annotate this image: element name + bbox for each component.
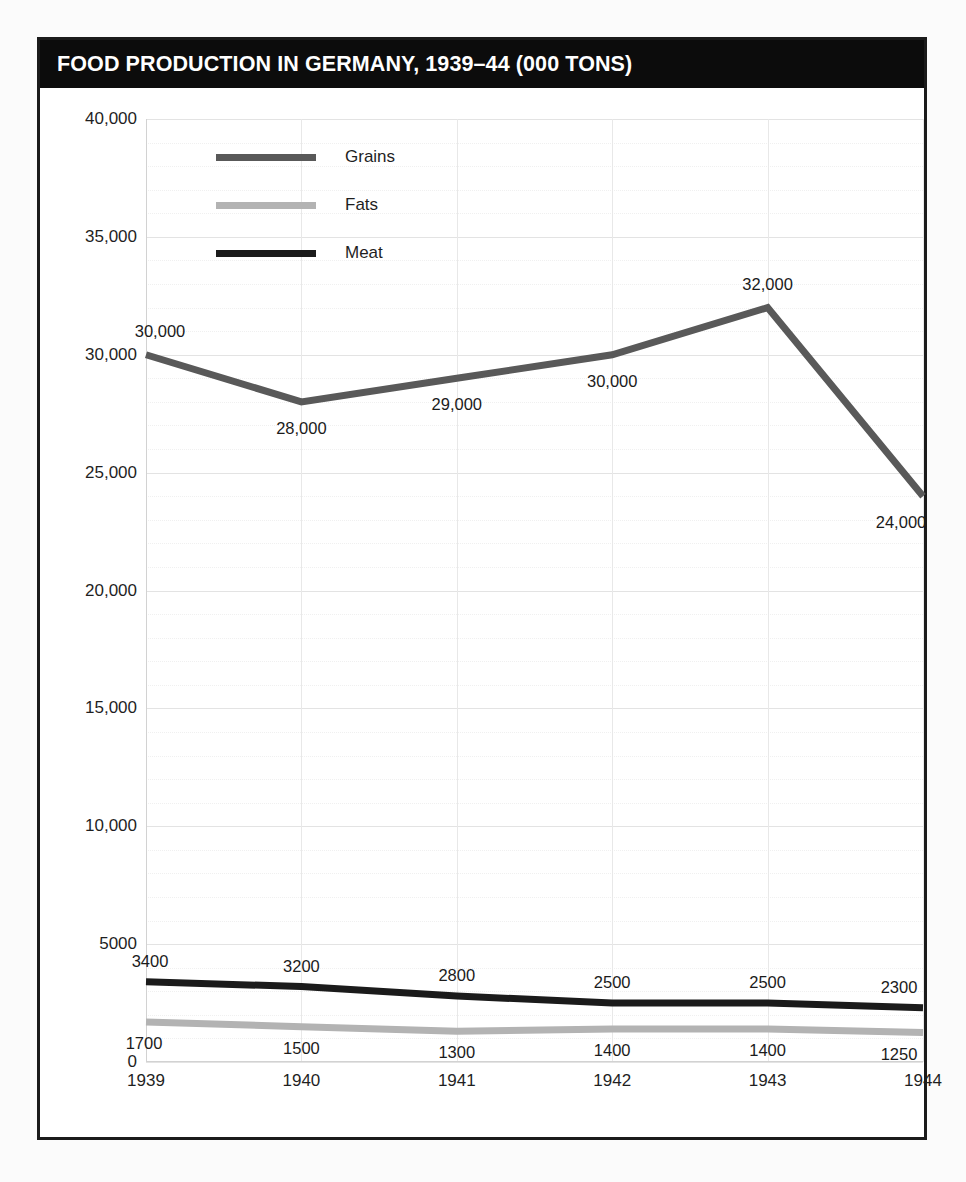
gridline-major — [146, 1062, 923, 1063]
y-axis-tick-label: 40,000 — [85, 109, 137, 129]
x-axis-tick-label: 1943 — [749, 1071, 787, 1091]
y-axis-tick-label: 25,000 — [85, 463, 137, 483]
x-axis-tick-label: 1942 — [593, 1071, 631, 1091]
x-axis-tick-label: 1939 — [127, 1071, 165, 1091]
series-line-fats — [146, 1022, 923, 1033]
legend-item-grains[interactable]: Grains — [216, 133, 461, 181]
legend-swatch-icon — [216, 202, 316, 209]
y-axis-tick-label: 35,000 — [85, 227, 137, 247]
chart-page: FOOD PRODUCTION IN GERMANY, 1939–44 (000… — [0, 0, 966, 1182]
y-axis-tick-label: 20,000 — [85, 581, 137, 601]
plot-area: 40,00035,00030,00025,00020,00015,00010,0… — [146, 119, 923, 1062]
legend-item-label: Meat — [345, 243, 383, 263]
legend-swatch-icon — [216, 250, 316, 257]
series-line-meat — [146, 982, 923, 1008]
y-axis-tick-label: 0 — [128, 1052, 137, 1072]
legend-item-label: Fats — [345, 195, 378, 215]
legend-item-meat[interactable]: Meat — [216, 229, 461, 277]
y-axis-tick-label: 10,000 — [85, 816, 137, 836]
chart-card: FOOD PRODUCTION IN GERMANY, 1939–44 (000… — [37, 37, 927, 1140]
series-line-grains — [146, 308, 923, 497]
y-axis-tick-label: 15,000 — [85, 698, 137, 718]
legend-item-label: Grains — [345, 147, 395, 167]
legend: GrainsFatsMeat — [216, 133, 461, 277]
legend-item-fats[interactable]: Fats — [216, 181, 461, 229]
title-bar: FOOD PRODUCTION IN GERMANY, 1939–44 (000… — [40, 40, 924, 88]
chart-body: 40,00035,00030,00025,00020,00015,00010,0… — [40, 88, 924, 1137]
legend-swatch-icon — [216, 154, 316, 161]
page-title: FOOD PRODUCTION IN GERMANY, 1939–44 (000… — [40, 52, 632, 77]
y-axis-tick-label: 30,000 — [85, 345, 137, 365]
y-axis-tick-label: 5000 — [99, 934, 137, 954]
x-axis-tick-label: 1941 — [438, 1071, 476, 1091]
x-axis-tick-label: 1944 — [904, 1071, 942, 1091]
gridline-vertical — [923, 119, 924, 1062]
x-axis-tick-label: 1940 — [282, 1071, 320, 1091]
